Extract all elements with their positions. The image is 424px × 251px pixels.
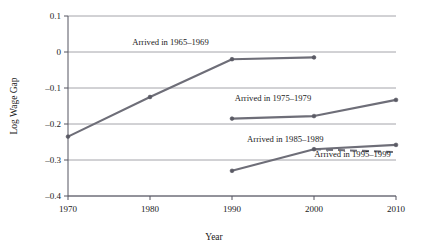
series-marker [148,95,152,99]
x-tick-label: 1980 [141,204,160,214]
series-marker [230,169,234,173]
y-tick-label: 0 [57,47,62,57]
series-marker [230,57,234,61]
series-marker [312,114,316,118]
series-annotation-4: Arrived in 1995–1999 [314,149,390,159]
series-marker [230,117,234,121]
series-marker [394,143,398,147]
chart-figure: 0.10–0.1–0.2–0.3–0.4 1970198019902000201… [0,0,424,251]
y-tick-label: –0.1 [44,83,61,93]
x-tick-label: 1970 [59,204,78,214]
series-annotation-2: Arrived in 1975–1979 [235,93,311,103]
series-marker [312,56,316,60]
series-annotation-1: Arrived in 1965–1969 [132,37,208,47]
x-axis-title: Year [205,232,223,242]
y-tick-label: –0.4 [44,191,61,201]
x-tick-label: 2000 [305,204,324,214]
y-axis-title: Log Wage Gap [9,77,19,134]
y-tick-label: 0.1 [50,11,61,21]
series-marker [66,135,70,139]
series-annotation-3: Arrived in 1985–1989 [247,134,323,144]
series-marker [394,98,398,102]
y-tick-label: –0.3 [44,155,61,165]
x-tick-label: 1990 [223,204,242,214]
line-chart: 0.10–0.1–0.2–0.3–0.4 1970198019902000201… [0,0,424,251]
x-tick-label: 2010 [387,204,406,214]
y-tick-label: –0.2 [44,119,61,129]
